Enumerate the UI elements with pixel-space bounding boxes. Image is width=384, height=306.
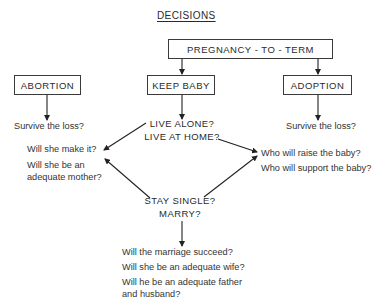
- mother-q1: Will she make it?: [27, 143, 102, 155]
- marital-line-1: STAY SINGLE?: [140, 195, 220, 206]
- support-questions: Who will raise the baby? Who will suppor…: [261, 147, 371, 174]
- living-line-2: LIVE AT HOME?: [144, 131, 220, 142]
- support-q1: Who will raise the baby?: [261, 147, 371, 159]
- living-line-1: LIVE ALONE?: [144, 118, 220, 129]
- marital-decision: STAY SINGLE? MARRY?: [140, 195, 220, 219]
- mother-questions: Will she make it? Will she be an adequat…: [27, 143, 102, 183]
- marriage-q2: Will she be an adequate wife?: [122, 261, 245, 273]
- node-keep-baby: KEEP BABY: [147, 75, 215, 95]
- abortion-question: Survive the loss?: [14, 120, 84, 132]
- marital-line-2: MARRY?: [140, 208, 220, 219]
- mother-q2-line1: Will she be an: [27, 159, 102, 171]
- diagram-title: DECISIONS: [157, 10, 216, 21]
- node-pregnancy-to-term: PREGNANCY - TO - TERM: [168, 39, 333, 59]
- support-q2: Who will support the baby?: [261, 162, 371, 174]
- marriage-q1: Will the marriage succeed?: [122, 246, 245, 258]
- node-abortion: ABORTION: [14, 75, 81, 95]
- adoption-question: Survive the loss?: [286, 120, 356, 132]
- marriage-q3-line2: and husband?: [122, 288, 245, 300]
- node-adoption: ADOPTION: [283, 75, 352, 95]
- mother-q2-line2: adequate mother?: [27, 171, 102, 183]
- marriage-questions: Will the marriage succeed? Will she be a…: [122, 246, 245, 300]
- marriage-q3-line1: Will he be an adequate father: [122, 276, 245, 288]
- living-decision: LIVE ALONE? LIVE AT HOME?: [144, 118, 220, 142]
